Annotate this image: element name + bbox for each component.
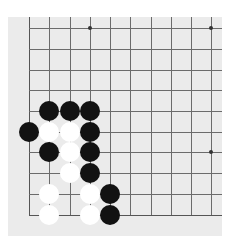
- grid-line-horizontal: [29, 173, 222, 174]
- white-stone: [39, 184, 59, 204]
- star-point: [209, 150, 213, 154]
- white-stone: [60, 142, 80, 162]
- grid-line-vertical: [29, 17, 31, 216]
- star-point: [88, 26, 92, 30]
- black-stone: [80, 163, 100, 183]
- black-stone: [39, 101, 59, 121]
- black-stone: [80, 122, 100, 142]
- white-stone: [60, 122, 80, 142]
- grid-line-vertical: [191, 17, 192, 216]
- black-stone: [80, 142, 100, 162]
- grid-line-horizontal: [29, 90, 222, 91]
- white-stone: [60, 163, 80, 183]
- grid-line-vertical: [211, 17, 212, 216]
- black-stone: [100, 184, 120, 204]
- grid-line-horizontal: [29, 70, 222, 71]
- grid-line-horizontal: [29, 28, 222, 29]
- black-stone: [19, 122, 39, 142]
- black-stone: [39, 142, 59, 162]
- white-stone: [80, 184, 100, 204]
- black-stone: [60, 101, 80, 121]
- grid-line-vertical: [130, 17, 131, 216]
- black-stone: [100, 205, 120, 225]
- white-stone: [80, 205, 100, 225]
- white-stone: [39, 205, 59, 225]
- grid-line-horizontal: [29, 49, 222, 50]
- white-stone: [39, 122, 59, 142]
- grid-line-vertical: [171, 17, 172, 216]
- grid-line-vertical: [151, 17, 152, 216]
- star-point: [209, 26, 213, 30]
- black-stone: [80, 101, 100, 121]
